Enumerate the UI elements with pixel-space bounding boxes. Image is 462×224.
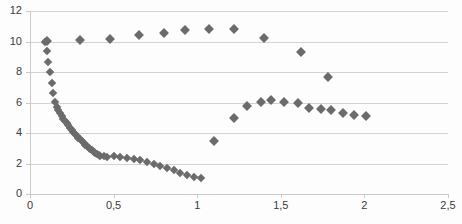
data-point — [266, 95, 276, 105]
data-point — [304, 103, 314, 113]
x-axis-label-2,5: 2,5 — [428, 200, 462, 211]
data-point — [242, 101, 252, 111]
data-point — [316, 104, 326, 114]
x-axis-label-1: 1 — [177, 200, 217, 211]
scatter-chart: 024681012 00,511,522,5 — [0, 0, 462, 224]
data-point — [229, 113, 239, 123]
data-point — [293, 98, 303, 108]
x-tick-0 — [30, 194, 31, 198]
data-point — [349, 110, 359, 120]
x-tick-1,5 — [281, 194, 282, 198]
data-point — [196, 174, 204, 182]
data-point — [259, 33, 269, 43]
data-point — [323, 72, 333, 82]
data-point — [46, 68, 54, 76]
x-axis-label-1,5: 1,5 — [261, 200, 301, 211]
y-axis-label-0: 0 — [0, 188, 22, 199]
data-point — [279, 97, 289, 107]
x-tick-2,5 — [448, 194, 449, 198]
x-axis-label-0,5: 0,5 — [94, 200, 134, 211]
y-axis-label-10: 10 — [0, 36, 22, 47]
data-point — [42, 47, 50, 55]
x-tick-1 — [197, 194, 198, 198]
data-point — [326, 105, 336, 115]
data-point — [181, 25, 191, 35]
data-point — [296, 47, 306, 57]
data-point — [256, 97, 266, 107]
y-axis-label-2: 2 — [0, 158, 22, 169]
y-axis-label-6: 6 — [0, 97, 22, 108]
y-axis-label-4: 4 — [0, 127, 22, 138]
data-point — [229, 24, 239, 34]
y-axis-label-12: 12 — [0, 5, 22, 16]
plot-area — [30, 11, 448, 194]
data-point — [338, 108, 348, 118]
data-point — [361, 111, 371, 121]
data-point — [134, 30, 144, 40]
data-point — [209, 136, 219, 146]
data-point — [49, 89, 57, 97]
x-axis-line — [30, 194, 448, 195]
data-point — [44, 58, 52, 66]
x-axis-label-2: 2 — [344, 200, 384, 211]
y-axis-label-8: 8 — [0, 66, 22, 77]
data-point — [159, 28, 169, 38]
data-point — [47, 79, 55, 87]
x-tick-2 — [364, 194, 365, 198]
data-point — [75, 35, 85, 45]
x-axis-label-0: 0 — [10, 200, 50, 211]
data-point — [204, 24, 214, 34]
x-tick-0,5 — [114, 194, 115, 198]
data-point — [105, 34, 115, 44]
